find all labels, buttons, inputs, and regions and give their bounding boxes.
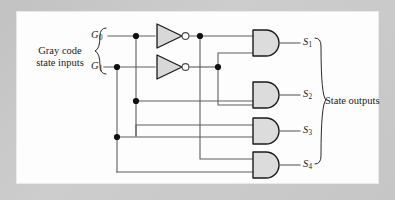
junction-g1-bus	[114, 64, 120, 70]
junction-g0-bus	[133, 33, 139, 39]
input-label-g1-sub: 1	[99, 65, 103, 73]
wire-notg1-to-and-s2	[218, 67, 253, 105]
output-group-label: State outputs	[325, 95, 380, 107]
inverter-g0-bubble	[182, 33, 189, 40]
wire-notg1-to-and-s1	[218, 53, 253, 67]
input-group-label-line1: Gray code	[22, 45, 98, 57]
inverter-g0-body	[157, 24, 182, 48]
inverter-g1-body	[157, 55, 182, 79]
output-label-s2-sub: 2	[308, 93, 312, 101]
junction-g0-branch-s2	[133, 98, 139, 104]
wire-g0-to-and-s3	[136, 125, 253, 136]
and-gate-s2-body	[253, 82, 279, 108]
input-label-g0-sub: 0	[99, 34, 103, 42]
and-gate-s3-body	[253, 118, 279, 144]
output-label-s1-sub: 1	[308, 41, 312, 49]
output-label-s3-sub: 3	[308, 129, 312, 137]
figure-root: Gray code state inputs G0 G1 S1 S2 S3 S4…	[0, 0, 395, 200]
and-gate-s1-body	[253, 30, 279, 56]
input-label-g1-name: G	[91, 60, 99, 71]
input-label-g0-name: G	[91, 29, 99, 40]
output-label-s4: S4	[303, 158, 312, 171]
input-label-g0: G0	[91, 29, 102, 42]
output-label-s1: S1	[303, 36, 312, 49]
wire-notg0-bus	[200, 36, 253, 159]
output-label-s4-sub: 4	[308, 163, 312, 171]
output-label-s3: S3	[303, 124, 312, 137]
junction-notg1-bus	[215, 64, 221, 70]
output-label-s2: S2	[303, 88, 312, 101]
and-gate-s4-body	[253, 152, 279, 178]
input-label-g1: G1	[91, 60, 102, 73]
input-group-label-line2: state inputs	[22, 57, 98, 69]
inverter-g1-bubble	[182, 64, 189, 71]
input-group-label: Gray code state inputs	[22, 45, 98, 70]
junction-g1-branch-s3	[114, 134, 120, 140]
junction-notg0-bus	[197, 33, 203, 39]
